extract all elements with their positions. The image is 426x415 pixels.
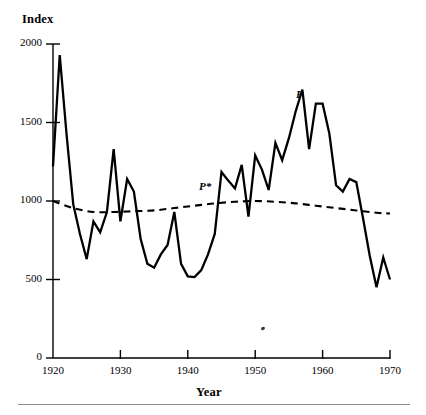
footer-rule bbox=[18, 404, 410, 405]
chart-figure: Index Year P P* 050010001500200019201930… bbox=[0, 0, 426, 415]
y-tick-label: 0 bbox=[37, 350, 43, 362]
series-line-p-star bbox=[53, 201, 390, 214]
x-tick-label: 1920 bbox=[33, 364, 73, 376]
y-tick-label: 1000 bbox=[20, 193, 42, 205]
x-tick-label: 1970 bbox=[370, 364, 410, 376]
plot-area bbox=[0, 0, 426, 415]
y-tick-label: 1500 bbox=[20, 115, 42, 127]
x-tick-label: 1930 bbox=[100, 364, 140, 376]
axis-lines bbox=[53, 44, 390, 358]
x-tick-label: 1960 bbox=[303, 364, 343, 376]
x-tick-label: 1940 bbox=[168, 364, 208, 376]
x-tick-label: 1950 bbox=[235, 364, 275, 376]
y-tick-label: 500 bbox=[26, 272, 43, 284]
y-tick-label: 2000 bbox=[20, 36, 42, 48]
series-line-p bbox=[53, 55, 390, 287]
